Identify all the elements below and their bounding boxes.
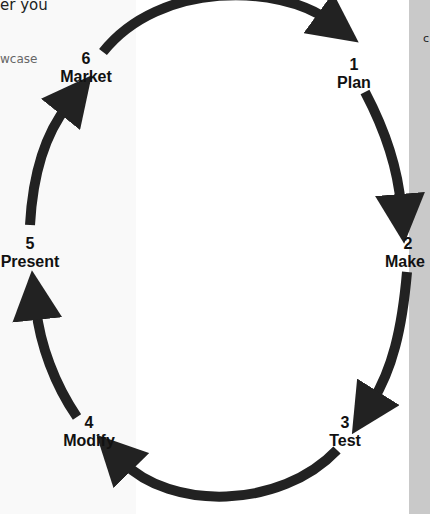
step-present: 5 Present <box>1 235 60 271</box>
step-market: 6 Market <box>60 50 112 86</box>
arrow-test-to-modify <box>123 450 337 497</box>
step-label: Make <box>385 253 425 271</box>
step-label: Market <box>60 68 112 86</box>
step-make: 2 Make <box>385 235 425 271</box>
step-label: Plan <box>337 74 371 92</box>
step-number: 3 <box>329 414 361 432</box>
step-number: 6 <box>60 50 112 68</box>
step-label: Test <box>329 432 361 450</box>
arrow-make-to-test <box>372 272 407 402</box>
step-number: 5 <box>1 235 60 253</box>
step-test: 3 Test <box>329 414 361 450</box>
step-label: Present <box>1 253 60 271</box>
step-number: 1 <box>337 56 371 74</box>
arrow-plan-to-make <box>365 92 401 206</box>
step-number: 2 <box>385 235 425 253</box>
step-label: Modify <box>63 432 115 450</box>
step-number: 4 <box>63 414 115 432</box>
step-modify: 4 Modify <box>63 414 115 450</box>
arrow-market-to-plan <box>103 0 328 52</box>
arrow-present-to-market <box>30 105 68 225</box>
step-plan: 1 Plan <box>337 56 371 92</box>
arrow-modify-to-present <box>36 308 77 417</box>
